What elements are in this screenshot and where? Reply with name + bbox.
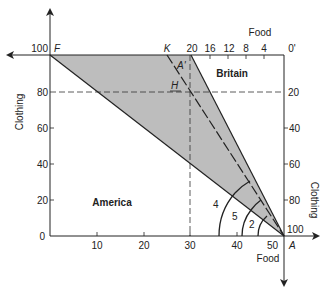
britain-y-tick-60: 60 xyxy=(289,159,301,170)
point-F: F xyxy=(54,43,61,54)
angle-label-2: 2 xyxy=(249,219,255,230)
america-x-tick-30: 30 xyxy=(184,240,196,251)
britain-x-tick-12: 12 xyxy=(223,43,235,54)
america-y-tick-0: 0 xyxy=(39,231,45,242)
america-x-tick-20: 20 xyxy=(138,240,150,251)
point-H: H xyxy=(171,80,179,91)
britain-y-tick-20: 20 xyxy=(288,87,300,98)
america-y-ticks xyxy=(50,128,54,200)
britain-x-tick-0-prime: 0' xyxy=(288,43,296,54)
britain-x-tick-8: 8 xyxy=(243,43,249,54)
america-y-tick-100: 100 xyxy=(31,43,48,54)
america-x-tick-10: 10 xyxy=(91,240,103,251)
america-food-label: Food xyxy=(257,253,280,264)
britain-x-tick-16: 16 xyxy=(204,43,216,54)
box-diagram: 10 20 30 40 50 0 20 40 60 80 100 20 16 1… xyxy=(0,0,325,293)
britain-x-tick-20: 20 xyxy=(186,43,198,54)
britain-food-label: Food xyxy=(249,27,272,38)
britain-x-ticks xyxy=(210,55,264,59)
region-britain: Britain xyxy=(216,68,248,79)
america-x-tick-50: 50 xyxy=(267,240,279,251)
point-K: K xyxy=(164,43,172,54)
britain-x-tick-4: 4 xyxy=(261,43,267,54)
britain-y-tick-40: 40 xyxy=(289,123,301,134)
britain-y-tick-100: 100 xyxy=(287,224,304,235)
america-x-ticks xyxy=(97,232,237,236)
britain-y-tick-80: 80 xyxy=(289,195,301,206)
america-y-tick-40: 40 xyxy=(37,159,49,170)
angle-label-4: 4 xyxy=(213,199,219,210)
america-y-tick-80: 80 xyxy=(37,87,49,98)
britain-y-ticks xyxy=(284,128,288,200)
america-x-tick-40: 40 xyxy=(231,240,243,251)
america-clothing-label: Clothing xyxy=(14,94,25,131)
america-y-tick-20: 20 xyxy=(37,195,49,206)
america-y-tick-60: 60 xyxy=(37,123,49,134)
point-A: A xyxy=(288,240,296,251)
angle-label-5: 5 xyxy=(232,211,238,222)
point-A-prime: A' xyxy=(176,60,187,71)
region-america: America xyxy=(92,197,132,208)
britain-clothing-label: Clothing xyxy=(309,182,320,219)
